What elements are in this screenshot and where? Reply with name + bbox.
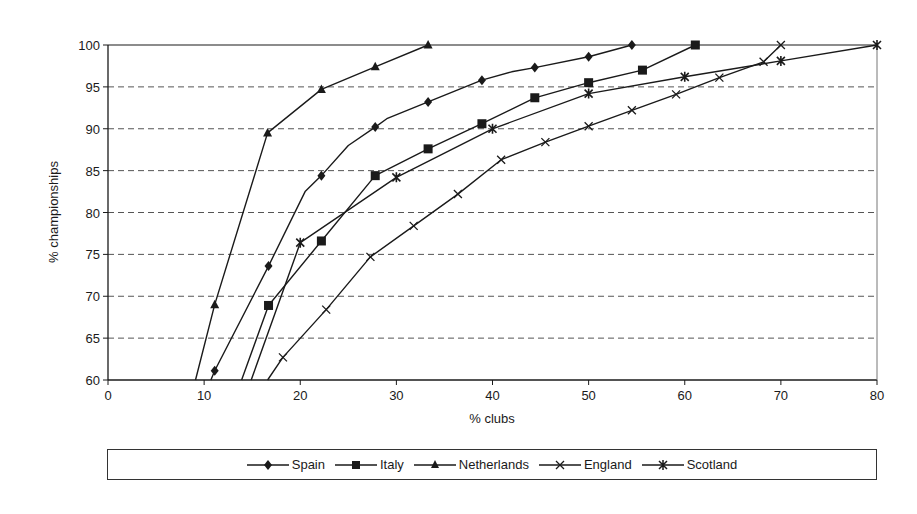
legend: Spain Italy Netherlands England Scotland	[107, 449, 877, 480]
x-tick-label: 80	[870, 388, 884, 403]
legend-label: Italy	[380, 457, 404, 472]
legend-label: England	[584, 457, 632, 472]
x-tick-label: 10	[197, 388, 211, 403]
y-axis-title: % championships	[46, 161, 61, 263]
x-tick-label: 70	[774, 388, 788, 403]
x-tick-label: 30	[389, 388, 403, 403]
series-england	[268, 41, 785, 380]
y-tick-label: 75	[86, 247, 100, 262]
series-spain	[211, 40, 636, 380]
asterisk-marker-icon	[642, 459, 684, 471]
line-chart: 606570758085909510001020304050607080 % c…	[0, 0, 917, 514]
y-tick-label: 60	[86, 373, 100, 388]
x-tick-label: 0	[104, 388, 111, 403]
legend-label: Scotland	[687, 457, 738, 472]
legend-item-italy: Italy	[335, 457, 404, 472]
y-tick-label: 85	[86, 164, 100, 179]
x-tick-label: 60	[678, 388, 692, 403]
y-tick-label: 100	[78, 38, 100, 53]
legend-label: Netherlands	[459, 457, 529, 472]
series-scotland	[251, 40, 881, 380]
y-tick-label: 95	[86, 80, 100, 95]
gridlines	[108, 45, 877, 338]
legend-item-england: England	[539, 457, 632, 472]
series-netherlands	[196, 40, 433, 380]
legend-label: Spain	[292, 457, 325, 472]
y-tick-label: 65	[86, 331, 100, 346]
triangle-marker-icon	[414, 459, 456, 471]
legend-item-netherlands: Netherlands	[414, 457, 529, 472]
legend-item-scotland: Scotland	[642, 457, 738, 472]
y-tick-label: 70	[86, 289, 100, 304]
square-marker-icon	[335, 459, 377, 471]
x-marker-icon	[539, 459, 581, 471]
x-tick-label: 40	[485, 388, 499, 403]
axes: 606570758085909510001020304050607080	[78, 38, 884, 403]
x-axis-title: % clubs	[469, 411, 515, 426]
x-tick-label: 20	[293, 388, 307, 403]
y-tick-label: 80	[86, 206, 100, 221]
legend-item-spain: Spain	[247, 457, 325, 472]
diamond-marker-icon	[247, 459, 289, 471]
series-lines	[196, 40, 882, 380]
series-italy	[242, 41, 700, 381]
x-tick-label: 50	[581, 388, 595, 403]
y-tick-label: 90	[86, 122, 100, 137]
